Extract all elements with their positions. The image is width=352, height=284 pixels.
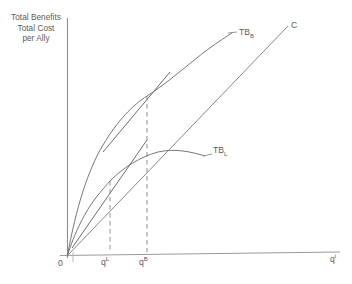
curve-TB-B (68, 33, 233, 256)
curve-label-c: C (291, 20, 297, 30)
y-axis-label: Total Benefits Total Cost per Ally (4, 13, 68, 45)
curve-label-tb-b-text: TB (239, 27, 250, 37)
curve-TB-L (68, 150, 206, 255)
cost-line-C (68, 26, 289, 256)
curve-label-tb-l: TBL (213, 145, 227, 155)
curve-label-tb-l-text: TB (213, 145, 224, 155)
x-axis-label-superscript: i (335, 252, 336, 259)
curve-label-c-text: C (291, 20, 297, 30)
leader-tbb (228, 32, 237, 33)
x-tick-label-qL-superscript: L (106, 255, 109, 262)
curve-label-tb-b-subscript: B (250, 32, 254, 39)
tangent-ray-TB-B (103, 72, 170, 152)
x-axis (60, 252, 340, 256)
curve-label-tb-b: TBB (239, 27, 254, 37)
x-tick-label-qB-superscript: B (144, 255, 148, 262)
x-tick-label-qL: qL (101, 257, 109, 267)
leader-tbl (203, 154, 212, 156)
x-tick-label-qB: qB (139, 257, 148, 267)
curve-label-tb-l-subscript: L (224, 150, 227, 157)
x-axis-label: qi (330, 254, 336, 264)
origin-label: 0 (58, 258, 63, 268)
